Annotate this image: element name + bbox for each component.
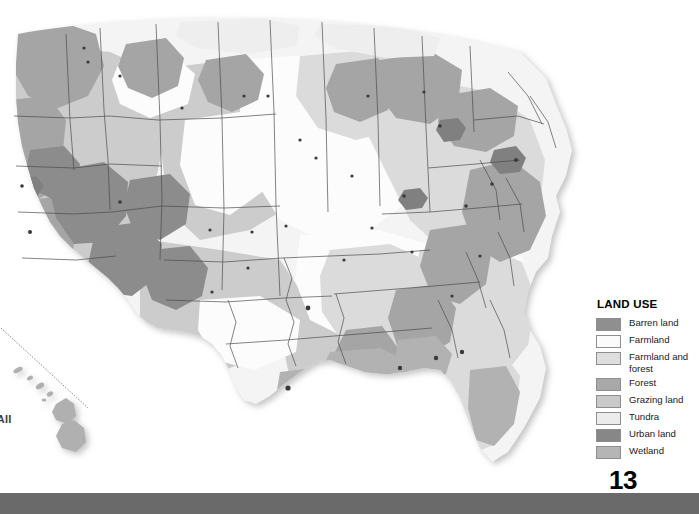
legend-swatch-farmland <box>596 335 621 348</box>
legend-swatch-forest <box>596 378 621 391</box>
legend-title: LAND USE <box>597 298 696 310</box>
hawaii-islands <box>12 366 86 452</box>
footer-bar <box>0 493 699 514</box>
legend-label-wetland: Wetland <box>629 445 664 457</box>
legend-label-grazing-land: Grazing land <box>629 394 683 406</box>
legend-label-farmland-and-forest: Farmland and forest <box>629 351 688 374</box>
page-number: 13 <box>609 466 637 494</box>
legend-label-forest: Forest <box>629 377 656 389</box>
legend-swatch-farmland-and-forest <box>596 352 621 365</box>
legend-item-forest: Forest <box>596 377 696 391</box>
legend-label-urban-land: Urban land <box>629 428 676 440</box>
united-states-land-use-map: 'VAII <box>0 0 600 495</box>
legend-swatch-tundra <box>596 412 621 425</box>
legend-item-urban-land: Urban land <box>596 428 696 442</box>
legend-label-farmland: Farmland <box>629 334 670 346</box>
legend-swatch-wetland <box>596 446 621 459</box>
legend-label-barren-land: Barren land <box>629 317 679 329</box>
legend-swatch-grazing-land <box>596 395 621 408</box>
legend-swatch-barren-land <box>596 318 621 331</box>
hawaii-inset-label: 'VAII <box>0 413 12 425</box>
legend-label-tundra: Tundra <box>629 411 659 423</box>
map-page: 'VAII LAND USE Barren land Farmland Farm… <box>0 0 699 514</box>
map-graphic <box>0 0 600 495</box>
legend-item-farmland-and-forest: Farmland and forest <box>596 351 696 374</box>
legend-item-barren-land: Barren land <box>596 317 696 331</box>
hawaii-leader-line <box>0 318 88 408</box>
legend-swatch-urban-land <box>596 429 621 442</box>
legend-item-farmland: Farmland <box>596 334 696 348</box>
map-legend: LAND USE Barren land Farmland Farmland a… <box>596 298 696 462</box>
legend-item-wetland: Wetland <box>596 445 696 459</box>
hawaii-inset <box>0 318 88 452</box>
legend-item-tundra: Tundra <box>596 411 696 425</box>
legend-item-grazing-land: Grazing land <box>596 394 696 408</box>
